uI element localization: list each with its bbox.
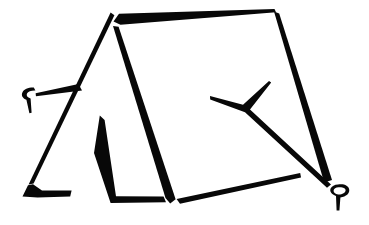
tent-illustration — [0, 0, 369, 225]
illustration-canvas: Camping Tent Line Art camping-tent black… — [0, 0, 369, 225]
